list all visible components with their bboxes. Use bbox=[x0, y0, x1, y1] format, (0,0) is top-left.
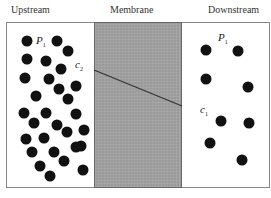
upstream-particle bbox=[62, 127, 73, 138]
upstream-particle bbox=[63, 94, 74, 105]
upstream-particle bbox=[22, 36, 33, 47]
upstream-particle bbox=[79, 125, 90, 136]
upstream-particle bbox=[41, 56, 52, 67]
upstream-particle bbox=[22, 54, 33, 65]
upstream-particle bbox=[39, 133, 50, 144]
downstream-particle bbox=[201, 74, 212, 85]
upstream-particle bbox=[44, 74, 55, 85]
upstream-particle bbox=[21, 134, 32, 145]
upstream-particle bbox=[45, 171, 56, 182]
upstream-concentration-label: c2 bbox=[75, 58, 83, 72]
upstream-particle bbox=[19, 108, 30, 119]
upstream-particle bbox=[71, 81, 82, 92]
upstream-particle bbox=[78, 165, 89, 176]
downstream-particle bbox=[243, 82, 254, 93]
upstream-particle bbox=[49, 147, 60, 158]
upstream-particle bbox=[63, 46, 74, 57]
upstream-pressure-label: P1 bbox=[36, 34, 46, 48]
upstream-particle bbox=[52, 120, 63, 131]
upstream-particle bbox=[71, 109, 82, 120]
upstream-particle bbox=[31, 91, 42, 102]
upstream-particle bbox=[29, 118, 40, 129]
upstream-particle bbox=[56, 64, 67, 75]
upstream-particle bbox=[20, 73, 31, 84]
upstream-particle bbox=[52, 36, 63, 47]
upstream-particle bbox=[41, 108, 52, 119]
downstream-particle bbox=[205, 138, 216, 149]
upstream-particle bbox=[27, 147, 38, 158]
upstream-particle bbox=[59, 156, 70, 167]
downstream-particle bbox=[233, 46, 244, 57]
concentration-gradient-line bbox=[94, 70, 182, 106]
upstream-particle bbox=[54, 84, 65, 95]
downstream-particle bbox=[244, 118, 255, 129]
upstream-particle bbox=[35, 161, 46, 172]
downstream-particle bbox=[216, 116, 227, 127]
downstream-particle bbox=[201, 45, 212, 56]
downstream-concentration-label: c1 bbox=[200, 103, 208, 117]
upstream-particle bbox=[71, 142, 82, 153]
particle-layer bbox=[0, 0, 271, 198]
downstream-particle bbox=[237, 155, 248, 166]
downstream-pressure-label: P1 bbox=[218, 31, 228, 45]
